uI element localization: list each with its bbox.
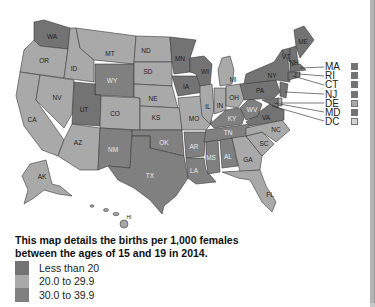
label-ok: OK bbox=[159, 139, 169, 146]
label-va: VA bbox=[262, 114, 271, 121]
caption-line-2: between the ages of 15 and 19 in 2014. bbox=[15, 247, 275, 260]
callout-swatch bbox=[351, 109, 358, 116]
callout-label: DC bbox=[325, 117, 351, 126]
legend-label: 30.0 to 39.9 bbox=[39, 289, 94, 301]
callout-swatch bbox=[351, 72, 358, 79]
label-nv: NV bbox=[52, 94, 62, 101]
label-tn: TN bbox=[224, 129, 233, 136]
label-wv: WV bbox=[247, 106, 258, 113]
legend-item-30-to-39-9: 30.0 to 39.9 bbox=[15, 288, 99, 302]
label-nd: ND bbox=[141, 47, 151, 54]
legend-label: Less than 20 bbox=[39, 262, 99, 274]
vertical-scrollbar[interactable] bbox=[370, 0, 375, 307]
label-ne: NE bbox=[148, 95, 158, 102]
state-de bbox=[278, 98, 282, 106]
label-nc: NC bbox=[271, 126, 281, 133]
northeast-state-callouts: MA RI CT NJ DE MD DC bbox=[325, 62, 365, 126]
label-la: LA bbox=[190, 167, 199, 174]
label-ia: IA bbox=[183, 83, 190, 90]
label-ga: GA bbox=[243, 156, 253, 163]
label-wi: WI bbox=[201, 68, 209, 75]
state-nj bbox=[280, 82, 288, 98]
scrollbar-thumb[interactable] bbox=[370, 0, 375, 303]
callout-dc: DC bbox=[325, 117, 365, 126]
legend-item-20-to-29-9: 20.0 to 29.9 bbox=[15, 275, 99, 289]
label-ca: CA bbox=[27, 116, 37, 123]
state-hi bbox=[90, 205, 128, 228]
legend-swatch bbox=[15, 288, 29, 302]
map-caption: This map details the births per 1,000 fe… bbox=[15, 234, 275, 260]
callout-swatch bbox=[351, 118, 358, 125]
label-fl: FL bbox=[266, 191, 274, 198]
label-ak: AK bbox=[38, 173, 47, 180]
label-pa: PA bbox=[256, 87, 265, 94]
label-nm: NM bbox=[108, 146, 118, 153]
label-il: IL bbox=[205, 103, 211, 110]
label-ut: UT bbox=[80, 106, 89, 113]
map-legend: Less than 20 20.0 to 29.9 30.0 to 39.9 bbox=[15, 261, 99, 302]
label-co: CO bbox=[110, 110, 120, 117]
callout-swatch bbox=[351, 63, 358, 70]
callout-swatch bbox=[351, 100, 358, 107]
label-in: IN bbox=[217, 102, 224, 109]
callout-swatch bbox=[351, 81, 358, 88]
label-mn: MN bbox=[175, 55, 185, 62]
label-ky: KY bbox=[228, 115, 237, 122]
label-id: ID bbox=[71, 65, 78, 72]
us-choropleth-map: WA OR CA ID NV MT WY UT AZ CO NM ND SD N… bbox=[0, 0, 345, 240]
legend-swatch bbox=[15, 261, 29, 275]
legend-label: 20.0 to 29.9 bbox=[39, 275, 94, 287]
state-nd bbox=[134, 36, 172, 62]
label-ks: KS bbox=[152, 114, 161, 121]
label-mo: MO bbox=[189, 115, 199, 122]
label-sc: SC bbox=[259, 140, 268, 147]
label-or: OR bbox=[39, 57, 49, 64]
state-ak bbox=[22, 160, 72, 204]
label-tx: TX bbox=[146, 172, 155, 179]
label-mi: MI bbox=[229, 76, 236, 83]
label-ms: MS bbox=[206, 154, 216, 161]
label-nh: NH bbox=[289, 59, 299, 66]
label-ny: NY bbox=[267, 72, 277, 79]
label-wa: WA bbox=[47, 33, 58, 40]
state-az bbox=[58, 124, 100, 170]
state-sd bbox=[134, 62, 172, 86]
callout-swatch bbox=[351, 91, 358, 98]
legend-item-less-than-20: Less than 20 bbox=[15, 261, 99, 275]
label-oh: OH bbox=[229, 94, 239, 101]
label-me: ME bbox=[298, 38, 308, 45]
label-wy: WY bbox=[107, 77, 118, 84]
legend-swatch bbox=[15, 275, 29, 289]
state-co bbox=[100, 96, 140, 130]
state-ct bbox=[288, 72, 296, 80]
caption-line-1: This map details the births per 1,000 fe… bbox=[15, 234, 275, 247]
label-sd: SD bbox=[143, 68, 152, 75]
label-hi: HI bbox=[127, 214, 132, 220]
label-ar: AR bbox=[189, 143, 198, 150]
label-mt: MT bbox=[105, 50, 114, 57]
label-az: AZ bbox=[74, 139, 82, 146]
state-ks bbox=[140, 106, 182, 130]
label-al: AL bbox=[224, 153, 232, 160]
